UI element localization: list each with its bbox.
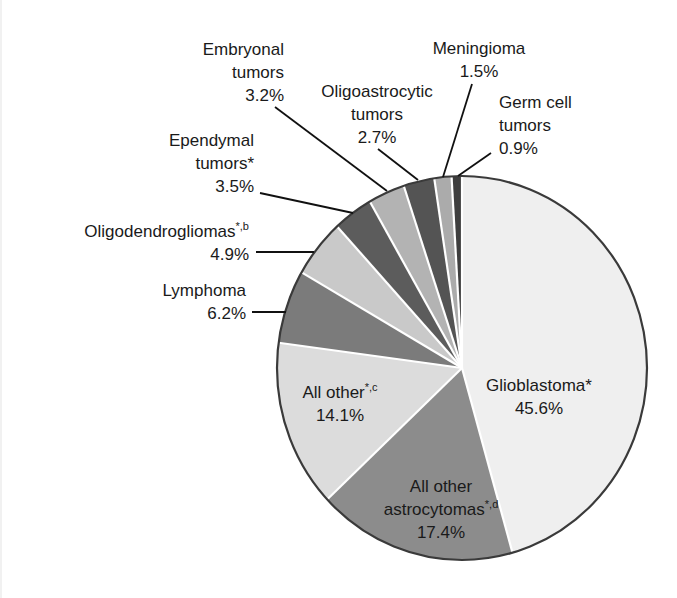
label-oligoastrocytic-tumors: Oligoastrocytictumors2.7% (321, 82, 433, 147)
label-value: 45.6% (515, 399, 563, 418)
label-embryonal-tumors: Embryonaltumors3.2% (203, 40, 284, 105)
label-superscript: *,c (365, 381, 378, 393)
label-name-line: tumors (499, 116, 551, 135)
leader-line-ependymal-tumors (260, 193, 353, 213)
label-name-line: Glioblastoma* (486, 376, 592, 395)
label-meningioma: Meningioma1.5% (433, 39, 526, 81)
left-edge-border (0, 0, 2, 598)
pie-chart: Glioblastoma*45.6%All otherastrocytomas*… (0, 0, 677, 598)
label-value: 0.9% (499, 139, 538, 158)
pie-chart-svg: Glioblastoma*45.6%All otherastrocytomas*… (0, 0, 677, 598)
label-name-line: astrocytomas (384, 500, 485, 519)
label-name-line: All other (302, 383, 365, 402)
label-name-line: Ependymal (169, 131, 254, 150)
label-value: 4.9% (210, 245, 249, 264)
label-germ-cell-tumors: Germ celltumors0.9% (499, 93, 572, 158)
label-superscript: *,b (236, 220, 249, 232)
leader-line-germ-cell-tumors (458, 153, 491, 176)
label-name-line: tumors (232, 63, 284, 82)
label-lymphoma: Lymphoma6.2% (163, 281, 247, 323)
label-name-line: Germ cell (499, 93, 572, 112)
label-value: 17.4% (417, 523, 465, 542)
label-value: 2.7% (358, 128, 397, 147)
label-name-line: Embryonal (203, 40, 284, 59)
label-name-line: Oligoastrocytic (321, 82, 433, 101)
leader-line-meningioma (443, 84, 472, 177)
label-name-line: tumors* (195, 154, 254, 173)
label-value: 3.5% (215, 177, 254, 196)
label-value: 1.5% (460, 62, 499, 81)
label-value: 3.2% (245, 86, 284, 105)
label-name-line: tumors (351, 105, 403, 124)
leader-line-oligoastrocytic-tumors (378, 149, 418, 180)
label-name-line: Meningioma (433, 39, 526, 58)
label-value: 14.1% (316, 406, 364, 425)
label-superscript: *,d (485, 498, 498, 510)
label-name-line: All other (410, 477, 473, 496)
label-oligodendrogliomas: Oligodendrogliomas*,b4.9% (84, 220, 249, 264)
label-name-line: Lymphoma (163, 281, 247, 300)
label-value: 6.2% (207, 304, 246, 323)
label-name-line: Oligodendrogliomas (84, 222, 235, 241)
label-ependymal-tumors: Ependymaltumors*3.5% (169, 131, 254, 196)
